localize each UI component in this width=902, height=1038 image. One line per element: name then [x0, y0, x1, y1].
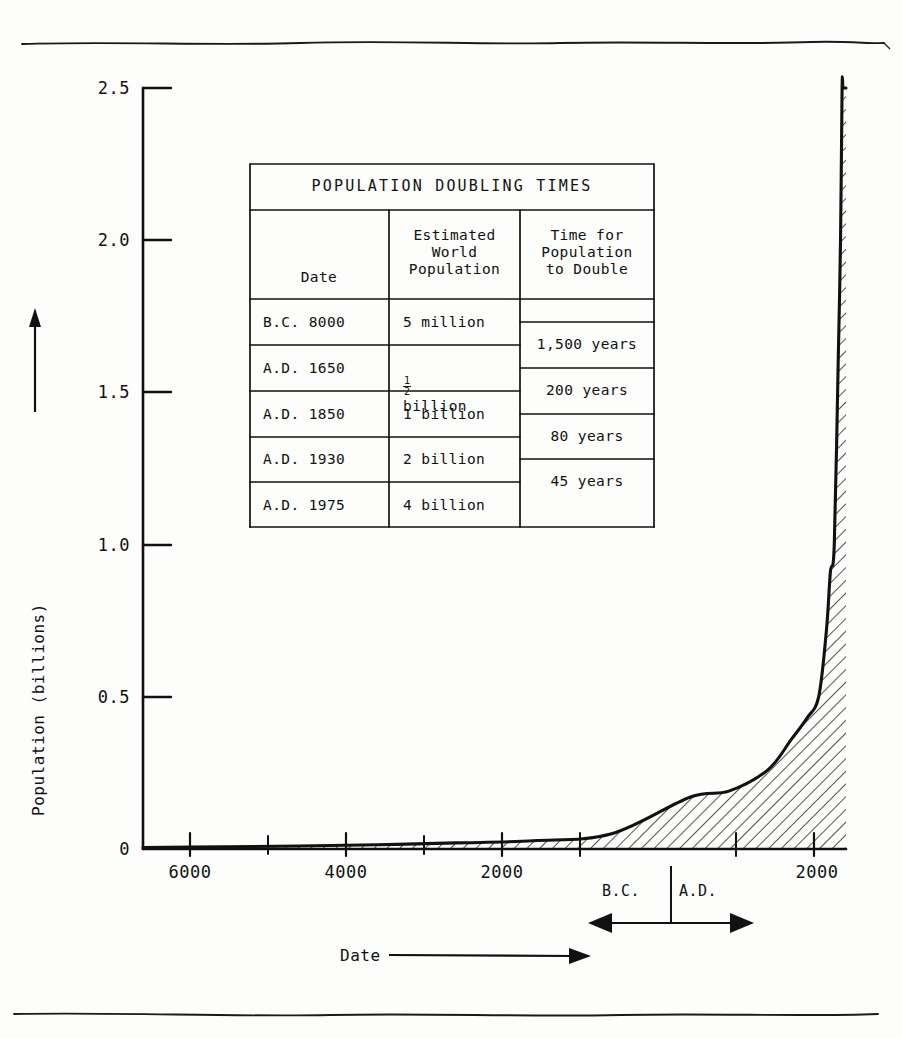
x-axis [143, 849, 846, 850]
table-cell-doubling-time: 45 years [520, 473, 654, 490]
table-cell-date: A.D. 1850 [263, 406, 389, 423]
era-label-bc: B.C. [602, 882, 640, 900]
table-title: POPULATION DOUBLING TIMES [249, 177, 655, 195]
x-axis-arrow [385, 944, 600, 966]
x-tick-label: 2000 [772, 862, 862, 882]
table-header-date: Date [249, 269, 389, 286]
era-annotation: B.C. A.D. [588, 866, 754, 936]
table-cell-doubling-time: 1,500 years [520, 336, 654, 353]
x-tick-label: 4000 [301, 862, 391, 882]
table-cell-doubling-time: 200 years [520, 382, 654, 399]
y-tick-label: 2.5 [72, 78, 130, 98]
y-axis-title-group: Population (billions) [18, 300, 52, 720]
table-cell-population: 2 billion [403, 451, 520, 468]
x-axis-title: Date [340, 946, 381, 965]
y-tick-label: 0.5 [72, 687, 130, 707]
y-tick-marks [143, 88, 171, 697]
y-tick-label: 1.0 [72, 535, 130, 555]
table-cell-date: A.D. 1650 [263, 360, 389, 377]
y-tick-label: 1.5 [72, 382, 130, 402]
table-cell-date: B.C. 8000 [263, 314, 389, 331]
table-cell-doubling-time: 80 years [520, 428, 654, 445]
y-tick-label: 0 [72, 839, 130, 859]
table-cell-population: 5 million [403, 314, 520, 331]
era-arrows [588, 866, 754, 936]
x-tick-label: 2000 [457, 862, 547, 882]
figure-page: 2.5 2.0 1.5 1.0 0.5 0 6000 4000 2000 200… [0, 0, 902, 1038]
population-doubling-times-table: POPULATION DOUBLING TIMES Date Estimated… [249, 163, 655, 528]
table-header-doubling: Time for Population to Double [520, 227, 654, 278]
y-tick-label: 2.0 [72, 230, 130, 250]
y-axis-title: Population (billions) [29, 540, 48, 880]
table-cell-population: 1 billion [403, 406, 520, 423]
fraction-one-half: 12 [403, 376, 411, 397]
x-tick-label: 6000 [145, 862, 235, 882]
table-cell-population: 4 billion [403, 497, 520, 514]
era-label-ad: A.D. [679, 882, 717, 900]
table-cell-date: A.D. 1975 [263, 497, 389, 514]
table-header-population: Estimated World Population [389, 227, 520, 278]
table-cell-date: A.D. 1930 [263, 451, 389, 468]
x-axis-title-group: Date [340, 935, 640, 975]
page-rule-bottom [0, 1008, 902, 1022]
y-axis [143, 88, 144, 849]
